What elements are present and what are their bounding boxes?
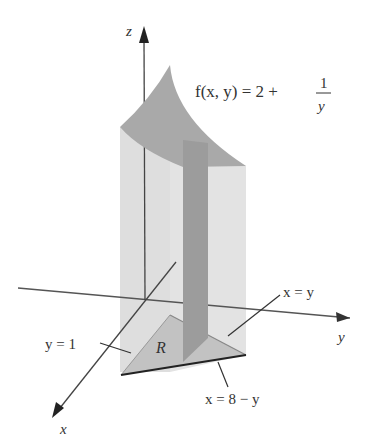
y-axis-label: y	[336, 329, 345, 345]
x-axis-label: x	[59, 421, 67, 437]
region-label: R	[155, 339, 166, 356]
z-axis-label: z	[125, 23, 132, 39]
function-frac-den: y	[316, 98, 325, 114]
z-axis-arrow-icon	[139, 26, 149, 43]
leader-x-eq-8-minus-y	[218, 362, 228, 387]
function-label: f(x, y) = 2 +	[195, 82, 278, 101]
label-x-eq-y: x = y	[283, 284, 314, 300]
cross-section-slab	[183, 140, 208, 362]
y-axis-arrow-icon	[336, 312, 350, 322]
label-x-eq-8-minus-y: x = 8 − y	[205, 391, 260, 407]
label-y-eq-1: y = 1	[45, 336, 76, 352]
solid-diagram: z y x f(x, y) = 2 + 1 y R y = 1 x = y x …	[0, 0, 373, 446]
function-frac-num: 1	[320, 75, 328, 91]
